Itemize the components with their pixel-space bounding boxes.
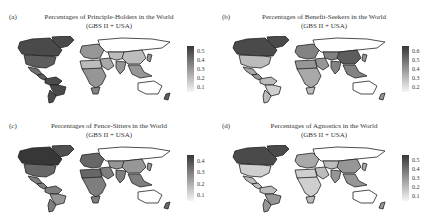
- panel-label: (a): [9, 13, 17, 21]
- region-japan: [147, 54, 152, 62]
- colorbar-tick-label: 0.2: [412, 84, 420, 90]
- region-sub-saharan-africa: [297, 177, 321, 197]
- panel-d: (d) Percentages of Agnostics in the Worl…: [215, 109, 429, 218]
- region-australia: [138, 81, 162, 94]
- subtitle-line: (GBS II + USA): [24, 131, 194, 140]
- region-south-africa: [306, 87, 315, 94]
- colorbar-tick-label: 0.2: [412, 184, 420, 190]
- region-russia: [313, 38, 385, 52]
- world-map: [227, 145, 392, 213]
- panel-label: (b): [222, 13, 230, 21]
- colorbar-ticks: 0.50.40.30.20.1: [197, 46, 213, 92]
- region-new-zealand: [379, 93, 385, 100]
- title-line: Percentages of Agnostics in the World: [239, 122, 409, 131]
- region-south-africa: [91, 87, 100, 94]
- subtitle-line: (GBS II + USA): [24, 22, 194, 31]
- colorbar-gradient: [187, 46, 194, 92]
- region-southeast-asia: [343, 174, 367, 187]
- panel-title: Percentages of Fence-Sitters in the Worl…: [24, 122, 194, 139]
- colorbar-gradient: [187, 155, 194, 201]
- panel-title: Percentages of Principle-Holders in the …: [24, 13, 194, 30]
- world-map: [12, 145, 177, 213]
- region-australia: [353, 81, 377, 94]
- subtitle-line: (GBS II + USA): [239, 22, 409, 31]
- panel-c: (c) Percentages of Fence-Sitters in the …: [0, 109, 214, 218]
- region-south-america-north: [45, 77, 62, 85]
- region-russia: [98, 147, 170, 161]
- region-new-zealand: [164, 93, 170, 100]
- colorbar: [187, 155, 194, 201]
- colorbar-tick-label: 0.3: [197, 169, 205, 175]
- region-southeast-asia: [128, 174, 152, 187]
- panel-label: (d): [222, 122, 230, 130]
- title-line: Percentages of Fence-Sitters in the Worl…: [24, 122, 194, 131]
- colorbar-tick-label: 0.3: [412, 175, 420, 181]
- region-india: [116, 170, 126, 183]
- colorbar-tick-label: 0.5: [197, 48, 205, 54]
- region-new-zealand: [379, 202, 385, 209]
- panel-title: Percentages of Agnostics in the World (G…: [239, 122, 409, 139]
- region-south-america-north: [260, 186, 277, 194]
- region-mexico: [243, 67, 257, 75]
- colorbar-tick-label: 0.3: [197, 66, 205, 72]
- panel-a: (a) Percentages of Principle-Holders in …: [0, 0, 214, 109]
- colorbar-tick-label: 0.4: [412, 66, 420, 72]
- colorbar-tick-label: 0.4: [197, 57, 205, 63]
- region-south-america-north: [45, 186, 62, 194]
- region-usa: [239, 164, 271, 177]
- title-line: Percentages of Benefit-Seekers in the Wo…: [239, 13, 409, 22]
- region-japan: [362, 163, 367, 171]
- colorbar-tick-label: 0.5: [412, 57, 420, 63]
- region-sub-saharan-africa: [82, 177, 106, 197]
- region-australia: [138, 190, 162, 203]
- region-usa: [24, 164, 56, 177]
- colorbar-ticks: 0.40.30.20.1: [197, 155, 213, 201]
- region-new-zealand: [164, 202, 170, 209]
- region-south-america-north: [260, 77, 277, 85]
- colorbar-tick-label: 0.6: [412, 48, 420, 54]
- region-india: [116, 61, 126, 74]
- region-russia: [313, 147, 385, 161]
- region-usa: [239, 55, 271, 68]
- region-southeast-asia: [128, 65, 152, 78]
- colorbar-gradient: [402, 46, 409, 92]
- colorbar-tick-label: 0.4: [197, 158, 205, 164]
- world-map: [227, 36, 392, 104]
- colorbar-gradient: [402, 155, 409, 201]
- panel-b: (b) Percentages of Benefit-Seekers in th…: [215, 0, 429, 109]
- colorbar: [402, 155, 409, 201]
- title-line: Percentages of Principle-Holders in the …: [24, 13, 194, 22]
- colorbar-tick-label: 0.5: [412, 157, 420, 163]
- region-sub-saharan-africa: [82, 68, 106, 88]
- subtitle-line: (GBS II + USA): [239, 131, 409, 140]
- colorbar-tick-label: 0.2: [197, 181, 205, 187]
- colorbar: [402, 46, 409, 92]
- region-south-africa: [91, 196, 100, 203]
- region-japan: [147, 163, 152, 171]
- region-sub-saharan-africa: [297, 68, 321, 88]
- colorbar-tick-label: 0.4: [412, 166, 420, 172]
- colorbar-ticks: 0.50.40.30.20.1: [412, 155, 428, 201]
- colorbar-tick-label: 0.1: [197, 84, 205, 90]
- region-russia: [98, 38, 170, 52]
- region-southeast-asia: [343, 65, 367, 78]
- region-india: [331, 61, 341, 74]
- world-map: [12, 36, 177, 104]
- region-usa: [24, 55, 56, 68]
- colorbar-tick-label: 0.1: [412, 193, 420, 199]
- colorbar-tick-label: 0.2: [197, 75, 205, 81]
- panel-label: (c): [9, 122, 17, 130]
- colorbar-tick-label: 0.3: [412, 75, 420, 81]
- region-south-africa: [306, 196, 315, 203]
- colorbar-tick-label: 0.1: [197, 192, 205, 198]
- region-india: [331, 170, 341, 183]
- colorbar: [187, 46, 194, 92]
- region-mexico: [28, 176, 42, 184]
- region-japan: [362, 54, 367, 62]
- region-mexico: [243, 176, 257, 184]
- region-mexico: [28, 67, 42, 75]
- panel-title: Percentages of Benefit-Seekers in the Wo…: [239, 13, 409, 30]
- colorbar-ticks: 0.60.50.40.30.2: [412, 46, 428, 92]
- region-australia: [353, 190, 377, 203]
